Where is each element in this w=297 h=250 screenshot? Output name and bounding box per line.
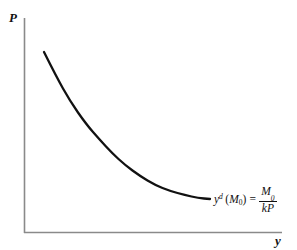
fraction-numerator-subscript: 0 — [271, 194, 275, 203]
demand-curve — [44, 52, 210, 199]
fraction-numerator: M0 — [259, 186, 276, 201]
annotation-superscript: d — [219, 193, 223, 201]
horizontal-axis-label: y — [275, 234, 281, 247]
annotation-argument-subscript: 0 — [239, 199, 243, 207]
annotation-close-paren: ) — [243, 194, 247, 206]
annotation-equals-sign: = — [249, 194, 256, 206]
curve-annotation: yd(M0)= M0 kP — [214, 186, 277, 214]
fraction-denominator: kP — [260, 202, 276, 215]
money-demand-curve-figure: P y yd(M0)= M0 kP — [0, 0, 297, 250]
vertical-axis-label: P — [9, 11, 17, 24]
fraction-numerator-symbol: M — [261, 185, 271, 197]
annotation-argument: M — [229, 194, 239, 206]
annotation-fraction: M0 kP — [259, 186, 277, 214]
